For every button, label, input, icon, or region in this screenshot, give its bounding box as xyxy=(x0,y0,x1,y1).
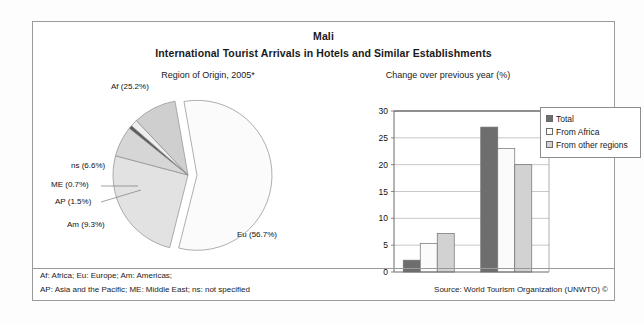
legend-swatch-from-africa xyxy=(546,128,553,135)
bar-total-1 xyxy=(481,127,498,272)
y-tick-label-30: 30 xyxy=(379,106,389,116)
legend-label-total: Total xyxy=(556,114,574,124)
y-tick-label-15: 15 xyxy=(379,187,389,197)
legend-item-total: Total xyxy=(546,114,636,124)
legend-swatch-from-other-regions xyxy=(546,141,553,148)
legend-label-from-africa: From Africa xyxy=(556,127,599,137)
legend-label-from-other-regions: From other regions xyxy=(556,140,628,150)
bar-series-bars xyxy=(403,127,532,272)
pie-label-ap: AP (1.5%) xyxy=(55,197,91,206)
pie-label-af: Af (25.2%) xyxy=(111,82,149,91)
bar-from-africa-1 xyxy=(498,149,515,272)
pie-chart-subtitle: Region of Origin, 2005* xyxy=(93,70,323,80)
bar-chart-legend: Total From Africa From other regions xyxy=(540,107,641,158)
legend-swatch-total xyxy=(546,115,553,122)
y-tick-label-5: 5 xyxy=(383,240,388,250)
y-tick-label-10: 10 xyxy=(379,213,389,223)
footer-abbrev-line-2: AP: Asia and the Pacific; ME: Middle Eas… xyxy=(40,285,250,294)
footer-source: Source: World Tourism Organization (UNWT… xyxy=(434,285,608,294)
legend-item-from-africa: From Africa xyxy=(546,127,636,137)
bar-from-other-regions-0 xyxy=(437,233,454,272)
footer-abbrev-line-1: Af: Africa; Eu: Europe; Am: Americas; xyxy=(40,271,172,280)
y-tick-label-20: 20 xyxy=(379,160,389,170)
page-title-main: International Tourist Arrivals in Hotels… xyxy=(33,47,614,59)
pie-label-am: Am (9.3%) xyxy=(67,220,105,229)
bar-from-other-regions-1 xyxy=(515,165,532,272)
legend-item-from-other-regions: From other regions xyxy=(546,140,636,150)
bar-y-axis-ticks: 051015202530 xyxy=(379,106,394,277)
y-tick-label-25: 25 xyxy=(379,133,389,143)
pie-slices xyxy=(113,100,272,250)
pie-label-me: ME (0.7%) xyxy=(51,180,89,189)
pie-chart: Af (25.2%) ns (6.6%) ME (0.7%) AP (1.5%)… xyxy=(33,80,333,270)
screenshot-canvas: Mali International Tourist Arrivals in H… xyxy=(0,0,644,324)
chart-panel: Mali International Tourist Arrivals in H… xyxy=(32,21,615,301)
footer-divider xyxy=(33,268,614,269)
pie-label-ns: ns (6.6%) xyxy=(71,161,105,170)
pie-slice-eu xyxy=(179,100,272,250)
bar-chart-subtitle: Change over previous year (%) xyxy=(333,70,563,80)
bar-total-0 xyxy=(403,260,420,272)
page-title-country: Mali xyxy=(33,30,614,42)
pie-label-eu: Eu (56.7%) xyxy=(237,230,277,239)
pie-chart-svg xyxy=(33,80,333,270)
